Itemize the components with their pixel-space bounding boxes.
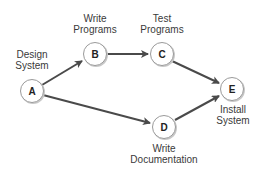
node-a-label: Design System — [15, 49, 48, 71]
node-e-letter: E — [229, 84, 236, 95]
node-b-label-line1: Write — [73, 13, 116, 24]
edge-a-d — [43, 95, 150, 123]
node-d-letter: D — [160, 122, 167, 133]
node-b-letter: B — [91, 49, 98, 60]
node-c-label: Test Programs — [140, 13, 183, 35]
node-c-label-line2: Programs — [140, 24, 183, 35]
node-a-letter: A — [28, 86, 35, 97]
node-e-label-line2: System — [216, 115, 249, 126]
edge-d-e — [175, 96, 219, 120]
node-d-label: Write Documentation — [130, 143, 197, 165]
node-d-label-line1: Write — [130, 143, 197, 154]
node-c-label-line1: Test — [140, 13, 183, 24]
node-b: B — [84, 43, 109, 68]
node-b-label: Write Programs — [73, 13, 116, 35]
node-a-label-line2: System — [15, 60, 48, 71]
node-a-label-line1: Design — [15, 49, 48, 60]
node-a: A — [21, 80, 46, 105]
node-e-label-line1: Install — [216, 104, 249, 115]
edge-c-e — [172, 61, 219, 83]
node-e-label: Install System — [216, 104, 249, 126]
node-c-letter: C — [158, 49, 165, 60]
node-c: C — [151, 43, 176, 68]
node-b-label-line2: Programs — [73, 24, 116, 35]
node-e: E — [221, 78, 246, 103]
node-d-label-line2: Documentation — [130, 154, 197, 165]
node-d: D — [153, 116, 178, 141]
